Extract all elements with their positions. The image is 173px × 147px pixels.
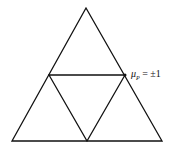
arrow-point (124, 74, 127, 77)
inner-triangle (49, 75, 125, 141)
mu-p-label: μP = ±1 (131, 68, 161, 81)
